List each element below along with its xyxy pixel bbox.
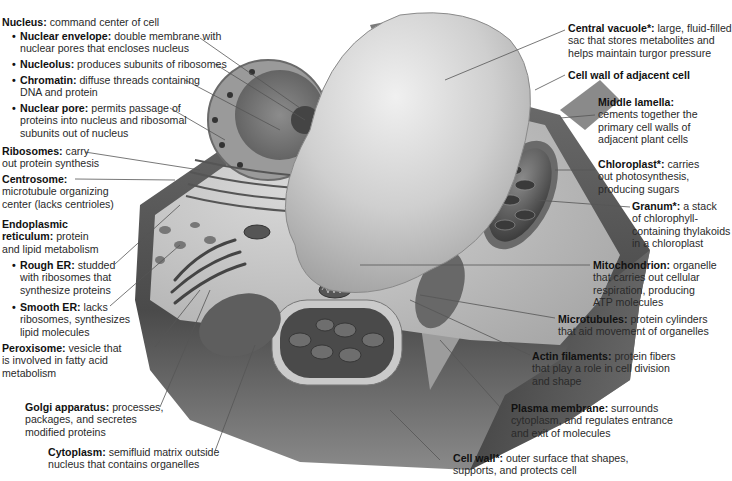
label-chloroplast: Chloroplast*: carries out photosynthesis…	[598, 158, 699, 195]
label-golgi-apparatus: Golgi apparatus: processes, packages, an…	[25, 401, 163, 438]
label-plasma-membrane: Plasma membrane: surrounds cytoplasm, an…	[511, 402, 673, 439]
label-nucleolus: Nucleolus: produces subunits of ribosome…	[20, 58, 227, 70]
chloroplast-front	[272, 300, 402, 385]
label-cell-wall: Cell wall*: outer surface that shapes, s…	[453, 452, 629, 477]
label-nuclear-envelope: Nuclear envelope: double membrane with n…	[20, 30, 221, 55]
label-granum: Granum*: a stack of chlorophyll- contain…	[632, 200, 730, 250]
label-mitochondrion: Mitochondrion: organelle that carries ou…	[593, 259, 717, 309]
label-smooth-er: Smooth ER: lacks ribosomes, synthesizes …	[20, 301, 130, 338]
label-nucleus: Nucleus: command center of cell	[2, 16, 159, 28]
label-ribosomes: Ribosomes: carry out protein synthesis	[2, 145, 99, 170]
label-adjacent-cell-wall: Cell wall of adjacent cell	[568, 69, 690, 81]
label-rough-er: Rough ER: studded with ribosomes that sy…	[20, 259, 115, 296]
label-chromatin: Chromatin: diffuse threads containing DN…	[20, 74, 200, 99]
label-middle-lamella: Middle lamella: cements together the pri…	[598, 96, 698, 146]
label-nuclear-pore: Nuclear pore: permits passage of protein…	[20, 102, 187, 139]
label-cytoplasm: Cytoplasm: semifluid matrix outside nucl…	[48, 446, 219, 471]
label-microtubules: Microtubules: protein cylinders that aid…	[558, 313, 709, 338]
label-centrosome: Centrosome: microtubule organizing cente…	[2, 173, 114, 210]
label-endoplasmic-reticulum: Endoplasmic reticulum: protein and lipid…	[2, 218, 99, 255]
label-actin-filaments: Actin filaments: protein fibers that pla…	[532, 350, 676, 387]
label-central-vacuole: Central vacuole*: large, fluid-filled sa…	[568, 22, 732, 59]
label-peroxisome: Peroxisome: vesicle that is involved in …	[2, 342, 122, 379]
